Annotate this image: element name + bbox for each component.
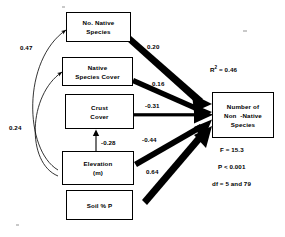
stat-r-squared-exponent: 2 <box>215 65 218 70</box>
scan-speck <box>62 6 65 8</box>
node-label-line2: Non -Native <box>224 111 262 120</box>
node-crust-cover[interactable]: Crust Cover <box>65 94 134 129</box>
node-label-line2: (m) <box>93 168 103 177</box>
node-label-line1: No. Native <box>83 18 115 27</box>
stat-r-squared: R2 = 0.46 <box>210 65 237 73</box>
edge-label-elevation-to-no-native: 0.47 <box>20 44 32 51</box>
edge-label-crust-to-outcome: -0.31 <box>145 102 160 109</box>
stat-f-statistic: F = 15.3 <box>220 146 244 153</box>
node-label-line2: Species Cover <box>75 72 120 81</box>
edge-label-native-cover-to-outcome: 0.16 <box>152 80 164 87</box>
stat-p-value: P < 0.001 <box>218 163 245 170</box>
scan-speck <box>16 224 19 226</box>
edge-label-no-native-to-outcome: 0.20 <box>147 43 159 50</box>
arrow-elevation-to-crust-cover <box>93 130 99 152</box>
node-label-line2: Species <box>86 27 110 36</box>
edge-label-elevation-to-crust: -0.28 <box>101 139 116 146</box>
node-label-line1: Number of <box>227 102 259 111</box>
node-elevation[interactable]: Elevation (m) <box>62 151 134 185</box>
node-native-species-cover[interactable]: Native Species Cover <box>62 57 133 86</box>
scan-speck <box>243 30 247 32</box>
node-label-line1: Soil % P <box>87 201 113 210</box>
stat-degrees-of-freedom: df = 5 and 79 <box>212 180 251 187</box>
node-label-line3: Species <box>231 120 255 129</box>
arrow-no-native-species-to-outcome <box>127 36 212 112</box>
node-label-line1: Crust <box>91 103 108 112</box>
node-label-line1: Native <box>88 63 107 72</box>
node-no-native-species[interactable]: No. Native Species <box>66 12 131 42</box>
node-label-line1: Elevation <box>84 159 113 168</box>
edge-label-soil-p-to-outcome: 0.64 <box>146 168 158 175</box>
path-diagram-figure: No. Native Species Native Species Cover … <box>0 0 285 237</box>
node-label-line2: Cover <box>90 112 108 121</box>
node-soil-p[interactable]: Soil % P <box>66 190 133 220</box>
node-non-native-species[interactable]: Number of Non -Native Species <box>212 92 274 138</box>
edge-label-elevation-to-native-cover: 0.24 <box>9 124 21 131</box>
arrow-elevation-to-native-species-cover <box>35 72 62 176</box>
stat-r-squared-value: = 0.46 <box>219 66 237 73</box>
arrow-elevation-to-outcome <box>134 120 212 168</box>
edge-label-elevation-to-outcome: -0.44 <box>142 136 157 143</box>
